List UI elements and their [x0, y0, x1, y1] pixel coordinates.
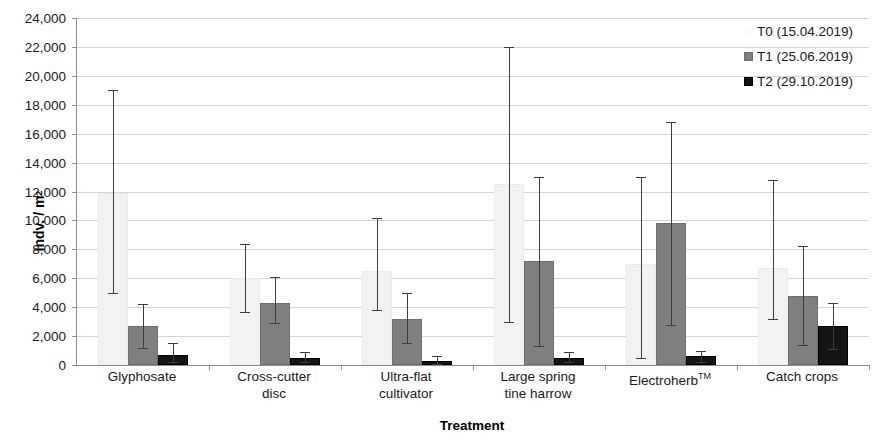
x-axis-category-label: Cross-cutterdisc [208, 368, 340, 402]
y-axis-tick-mark [72, 47, 77, 48]
error-bar-cap-upper [402, 293, 412, 294]
error-bar-cap-lower [138, 348, 148, 349]
error-bar-stem [275, 277, 276, 323]
error-bar-cap-upper [108, 90, 118, 91]
y-axis-tick-label: 10,000 [25, 213, 66, 228]
error-bar-cap-upper [138, 304, 148, 305]
y-axis-tick-mark [72, 76, 77, 77]
error-bar-cap-upper [768, 180, 778, 181]
error-bar-cap-lower [666, 325, 676, 326]
error-bar-cap-lower [768, 319, 778, 320]
trademark-superscript: TM [698, 371, 711, 381]
error-bar-cap-upper [534, 177, 544, 178]
error-bar-stem [803, 246, 804, 344]
error-bar-cap-lower [240, 312, 250, 313]
x-axis-category-label-text: Electroherb [629, 373, 698, 388]
error-bar-stem [407, 293, 408, 344]
x-axis-category-label-line: Catch crops [736, 368, 868, 385]
y-axis-tick-mark [72, 163, 77, 164]
error-bar-stem [773, 180, 774, 319]
y-axis-tick-label: 18,000 [25, 97, 66, 112]
error-bar-cap-upper [828, 303, 838, 304]
error-bar-cap-upper [240, 244, 250, 245]
error-bar-cap-lower [828, 349, 838, 350]
y-axis-tick-mark [72, 278, 77, 279]
error-bar-stem [437, 356, 438, 363]
legend-label: T1 (25.06.2019) [757, 49, 853, 64]
error-bar-cap-upper [636, 177, 646, 178]
error-bar-cap-lower [696, 362, 706, 363]
x-axis-category-label: ElectroherbTM [604, 368, 736, 389]
legend-swatch-t2 [744, 77, 753, 86]
gridline [77, 192, 869, 193]
error-bar-stem [305, 352, 306, 362]
error-bar-cap-upper [168, 343, 178, 344]
legend-item-t1: T1 (25.06.2019) [744, 44, 874, 69]
error-bar-stem [143, 304, 144, 347]
gridline [77, 220, 869, 221]
error-bar-cap-lower [504, 322, 514, 323]
gridline [77, 163, 869, 164]
x-axis-category-label: Glyphosate [76, 368, 208, 385]
legend-item-t0: T0 (15.04.2019) [744, 19, 874, 44]
error-bar-cap-lower [270, 323, 280, 324]
error-bar-cap-lower [432, 364, 442, 365]
error-bar-stem [245, 244, 246, 312]
error-bar-cap-upper [696, 351, 706, 352]
error-bar-stem [641, 177, 642, 358]
y-axis-tick-mark [72, 134, 77, 135]
y-axis-tick-label: 24,000 [25, 11, 66, 26]
error-bar-stem [509, 47, 510, 322]
y-axis-tick-label: 22,000 [25, 39, 66, 54]
error-bar-cap-upper [504, 47, 514, 48]
error-bar-cap-lower [108, 293, 118, 294]
error-bar-cap-lower [534, 346, 544, 347]
error-bar-stem [671, 122, 672, 324]
gridline [77, 134, 869, 135]
y-axis-tick-mark [72, 336, 77, 337]
y-axis-tick-label: 20,000 [25, 68, 66, 83]
y-axis-tick-label: 4,000 [32, 300, 66, 315]
x-axis-category-label-line: Large spring [472, 368, 604, 385]
error-bar-cap-upper [432, 356, 442, 357]
y-axis-tick-mark [72, 249, 77, 250]
legend-label: T2 (29.10.2019) [757, 74, 853, 89]
y-axis-tick-label: 16,000 [25, 126, 66, 141]
y-axis-tick-label: 2,000 [32, 329, 66, 344]
x-axis-category-label-line: Cross-cutter [208, 368, 340, 385]
gridline [77, 307, 869, 308]
error-bar-stem [113, 90, 114, 292]
y-axis-tick-label: 0 [58, 358, 66, 373]
error-bar-cap-lower [168, 362, 178, 363]
error-bar-cap-lower [798, 345, 808, 346]
x-axis-category-label-line: Ultra-flat [340, 368, 472, 385]
error-bar-stem [701, 351, 702, 363]
error-bar-cap-upper [666, 122, 676, 123]
x-axis-category-label: Large springtine harrow [472, 368, 604, 402]
x-axis-category-label-line: disc [208, 385, 340, 402]
x-axis-category-label: Catch crops [736, 368, 868, 385]
error-bar-cap-lower [402, 343, 412, 344]
legend-label: T0 (15.04.2019) [757, 24, 853, 39]
y-axis-tick-label: 14,000 [25, 155, 66, 170]
error-bar-cap-upper [798, 246, 808, 247]
error-bar-stem [833, 303, 834, 349]
error-bar-stem [569, 352, 570, 362]
error-bar-cap-lower [564, 362, 574, 363]
x-axis-group-separator [869, 365, 870, 370]
error-bar-cap-lower [372, 310, 382, 311]
y-axis-tick-labels: 02,0004,0006,0008,00010,00012,00014,0001… [0, 0, 70, 442]
legend-item-t2: T2 (29.10.2019) [744, 69, 874, 94]
x-axis-category-label-line: cultivator [340, 385, 472, 402]
error-bar-cap-upper [300, 352, 310, 353]
error-bar-stem [377, 218, 378, 311]
error-bar-stem [539, 177, 540, 346]
error-bar-stem [173, 343, 174, 362]
legend-swatch-t0 [744, 27, 753, 36]
bar-chart: Indv. / m2 02,0004,0006,0008,00010,00012… [0, 0, 877, 442]
gridline [77, 278, 869, 279]
y-axis-tick-label: 8,000 [32, 242, 66, 257]
gridline [77, 336, 869, 337]
gridline [77, 105, 869, 106]
y-axis-tick-label: 12,000 [25, 184, 66, 199]
